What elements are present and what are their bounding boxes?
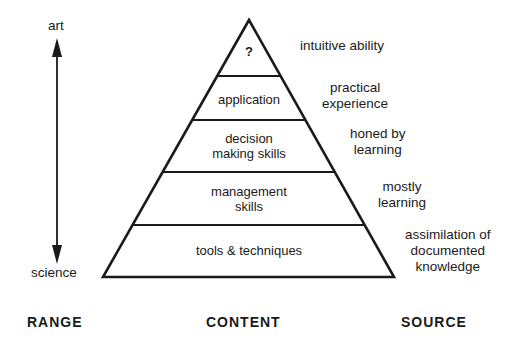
level-tools-label: tools & techniques [180, 243, 318, 258]
level-decision-making-label: decision making skills [190, 131, 308, 161]
range-top-label: art [48, 18, 64, 33]
source-documented-knowledge: assimilation of documented knowledge [405, 227, 491, 275]
content-heading: CONTENT [206, 314, 281, 330]
source-heading: SOURCE [401, 314, 467, 330]
range-bottom-label: science [31, 265, 77, 280]
level-application-label: application [200, 92, 298, 107]
range-arrow-icon [52, 38, 62, 264]
level-management-label: management skills [190, 184, 308, 214]
level-intuition-label: ? [229, 44, 269, 59]
source-mostly-learning: mostly learning [378, 179, 426, 211]
source-practical-experience: practical experience [322, 80, 388, 112]
source-intuitive-ability: intuitive ability [300, 38, 384, 54]
range-heading: RANGE [27, 314, 83, 330]
source-honed-by-learning: honed by learning [350, 126, 406, 158]
